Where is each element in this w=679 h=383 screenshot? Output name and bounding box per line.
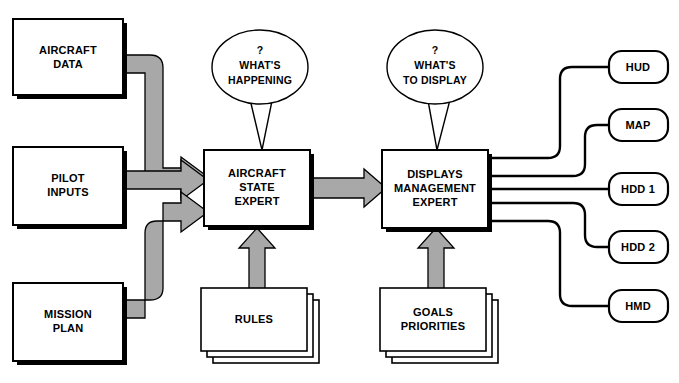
flow-arrow-between-experts — [311, 169, 386, 207]
bubble-label-line1: ? — [257, 44, 264, 56]
expert-box-aircraft-state-expert[interactable]: AIRCRAFT STATE EXPERT — [204, 150, 314, 230]
output-box-hud[interactable]: HUD — [609, 51, 668, 83]
bubble-label-line2: WHAT'S — [239, 59, 280, 71]
expert-label-line1: DISPLAYS — [407, 168, 463, 180]
expert-label-line1: AIRCRAFT — [228, 167, 286, 179]
connector-line-hud — [491, 67, 609, 158]
stack-label-line1: RULES — [235, 313, 273, 325]
source-box-pilot-inputs[interactable]: PILOT INPUTS — [13, 147, 127, 229]
source-box-mission-plan[interactable]: MISSION PLAN — [13, 283, 127, 365]
diagram-canvas: AIRCRAFT DATA PILOT INPUTS MISSION PLAN … — [0, 0, 679, 383]
source-label-line1: PILOT — [51, 172, 84, 184]
bubble-label-line3: HAPPENING — [228, 74, 292, 86]
expert-label-line3: EXPERT — [412, 196, 457, 208]
flow-arrow-goals-priorities — [418, 228, 454, 289]
output-label: HDD 1 — [621, 183, 655, 195]
stack-label-line1: GOALS — [413, 306, 453, 318]
connector-line-hmd — [491, 221, 609, 306]
connector-line-hdd-2 — [491, 203, 609, 247]
flow-arrow-mission-plan — [124, 192, 208, 318]
output-box-hdd-2[interactable]: HDD 2 — [609, 231, 668, 263]
bubble-label-line3: TO DISPLAY — [403, 74, 467, 86]
output-box-hmd[interactable]: HMD — [609, 290, 668, 322]
output-label: HUD — [626, 61, 650, 73]
flow-arrow-pilot-inputs — [124, 160, 208, 200]
output-label: HDD 2 — [621, 241, 655, 253]
output-label: HMD — [625, 300, 651, 312]
source-label-line1: MISSION — [44, 308, 92, 320]
output-label: MAP — [625, 119, 650, 131]
stack-label-line2: PRIORITIES — [401, 320, 465, 332]
bubble-label-line2: WHAT'S — [414, 59, 455, 71]
source-label-line2: INPUTS — [47, 186, 89, 198]
output-box-map[interactable]: MAP — [609, 109, 668, 141]
expert-box-displays-management-expert[interactable]: DISPLAYS MANAGEMENT EXPERT — [382, 150, 492, 232]
expert-label-line2: MANAGEMENT — [394, 182, 476, 194]
source-box-aircraft-data[interactable]: AIRCRAFT DATA — [13, 19, 127, 99]
bubble-label-line1: ? — [432, 44, 439, 56]
connector-line-map — [491, 125, 609, 176]
source-label-line1: AIRCRAFT — [39, 44, 97, 56]
flow-arrow-rules — [239, 228, 275, 289]
knowledge-stack-goals-priorities[interactable]: GOALS PRIORITIES — [380, 288, 498, 363]
speech-bubble-whats-happening: ? WHAT'S HAPPENING — [212, 30, 308, 150]
expert-label-line3: EXPERT — [234, 195, 279, 207]
knowledge-stack-rules[interactable]: RULES — [201, 288, 319, 363]
source-label-line2: DATA — [53, 58, 83, 70]
expert-label-line2: STATE — [239, 181, 274, 193]
source-label-line2: PLAN — [53, 322, 84, 334]
output-box-hdd-1[interactable]: HDD 1 — [609, 173, 668, 205]
block-diagram: AIRCRAFT DATA PILOT INPUTS MISSION PLAN … — [0, 0, 679, 383]
speech-bubble-whats-to-display: ? WHAT'S TO DISPLAY — [387, 30, 483, 150]
